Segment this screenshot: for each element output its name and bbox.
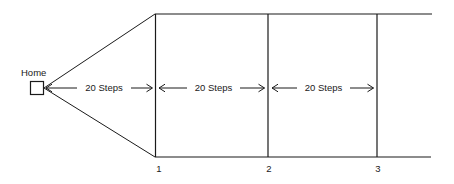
station-number-2: 2 (266, 163, 271, 174)
station-number-3: 3 (375, 163, 380, 174)
sightline-lower (44, 88, 155, 157)
steps-path-diagram: 20 Steps 20 Steps 20 Steps Home 1 2 3 (0, 0, 454, 184)
segment-label-2: 20 Steps (195, 82, 233, 93)
home-label: Home (21, 67, 46, 78)
diagram-canvas: 20 Steps 20 Steps 20 Steps Home 1 2 3 (0, 0, 454, 184)
station-number-1: 1 (156, 163, 161, 174)
segment-label-3: 20 Steps (305, 82, 343, 93)
home-square-marker (31, 82, 44, 95)
sightline-upper (44, 14, 155, 88)
segment-label-1: 20 Steps (85, 82, 123, 93)
